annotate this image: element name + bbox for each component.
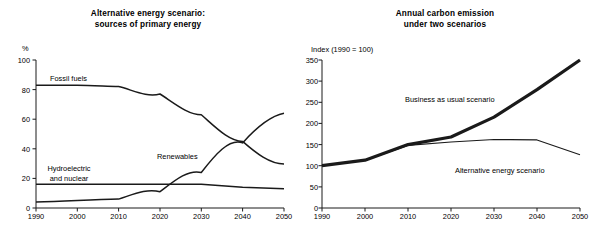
series-line-business-as-usual — [322, 60, 580, 166]
figure-canvas: Alternative energy scenario: sources of … — [0, 0, 593, 243]
plot-area-primary-energy — [36, 60, 284, 208]
x-tick-label-2030: 2030 — [486, 212, 502, 221]
y-tick-label-300: 300 — [297, 77, 318, 86]
x-tick-label-2040: 2040 — [529, 212, 545, 221]
y-tick-label-60: 60 — [6, 115, 30, 124]
x-tick-label-2020: 2020 — [443, 212, 459, 221]
y-tick-label-40: 40 — [6, 144, 30, 153]
y-tick-label-20: 20 — [6, 174, 30, 183]
y-axis-unit-index: Index (1990 = 100) — [311, 45, 373, 54]
x-tick-label-1990: 1990 — [28, 212, 44, 221]
y-tick-label-200: 200 — [297, 119, 318, 128]
chart-panel-carbon-emission: Annual carbon emission under two scenari… — [297, 0, 593, 243]
y-tick-label-100: 100 — [297, 161, 318, 170]
x-tick-label-2050: 2050 — [276, 212, 292, 221]
chart-title-line-1: Annual carbon emission — [297, 8, 593, 19]
chart-title-line-2: under two scenarios — [297, 19, 593, 30]
x-tick-label-2010: 2010 — [110, 212, 126, 221]
series-line-fossil-fuels — [36, 85, 284, 164]
chart-title-line-2: sources of primary energy — [0, 19, 296, 30]
y-tick-label-150: 150 — [297, 140, 318, 149]
plot-area-carbon-emission — [322, 60, 580, 208]
y-tick-label-0: 0 — [6, 204, 30, 213]
chart-panel-primary-energy: Alternative energy scenario: sources of … — [0, 0, 296, 243]
y-tick-label-350: 350 — [297, 56, 318, 65]
x-tick-label-2040: 2040 — [234, 212, 250, 221]
x-tick-label-2000: 2000 — [69, 212, 85, 221]
y-tick-label-50: 50 — [297, 182, 318, 191]
y-tick-label-100: 100 — [6, 56, 30, 65]
x-tick-label-2050: 2050 — [572, 212, 588, 221]
y-tick-label-80: 80 — [6, 85, 30, 94]
chart-title-primary-energy: Alternative energy scenario: sources of … — [0, 8, 296, 30]
series-line-renewables — [36, 113, 284, 202]
x-tick-label-2020: 2020 — [152, 212, 168, 221]
chart-title-line-1: Alternative energy scenario: — [0, 8, 296, 19]
x-tick-label-2000: 2000 — [357, 212, 373, 221]
y-tick-label-250: 250 — [297, 98, 318, 107]
x-tick-label-1990: 1990 — [314, 212, 330, 221]
chart-title-carbon-emission: Annual carbon emission under two scenari… — [297, 8, 593, 30]
x-tick-label-2030: 2030 — [193, 212, 209, 221]
series-line-hydro-nuclear — [36, 184, 284, 189]
y-axis-unit-percent: % — [22, 44, 29, 53]
x-tick-label-2010: 2010 — [400, 212, 416, 221]
